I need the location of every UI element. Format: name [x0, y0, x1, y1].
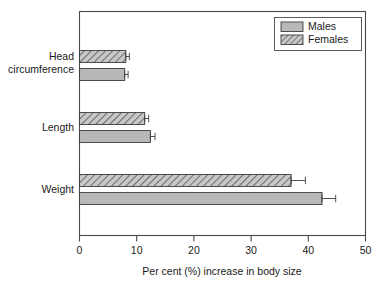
x-tick-label-50: 50 — [360, 244, 372, 256]
x-tick-label-20: 20 — [188, 244, 200, 256]
percent-increase-bar-chart: 0 10 20 30 40 50 Per cent (%) increase i… — [0, 0, 385, 287]
x-tick-label-40: 40 — [302, 244, 314, 256]
legend: Males Females — [275, 18, 362, 51]
y-category-label-weight: Weight — [42, 183, 75, 195]
y-category-label-length: Length — [42, 121, 74, 133]
bar-females-weight — [80, 175, 292, 187]
legend-swatch-males — [281, 22, 303, 32]
x-axis-title: Per cent (%) increase in body size — [142, 265, 301, 277]
x-tick-label-30: 30 — [245, 244, 257, 256]
y-category-label-head-line1: Head — [49, 50, 74, 62]
chart-container: 0 10 20 30 40 50 Per cent (%) increase i… — [0, 0, 385, 287]
legend-swatch-females — [281, 35, 303, 45]
bar-females-length — [80, 113, 145, 125]
x-tick-label-10: 10 — [131, 244, 143, 256]
y-category-label-head-line2: circumference — [8, 63, 74, 75]
x-tick-label-0: 0 — [77, 244, 83, 256]
bar-males-length — [80, 131, 151, 143]
bar-males-head-circumference — [80, 69, 125, 81]
legend-label-males: Males — [308, 20, 336, 32]
bar-males-weight — [80, 193, 323, 205]
legend-label-females: Females — [308, 33, 348, 45]
bar-females-head-circumference — [80, 51, 126, 63]
